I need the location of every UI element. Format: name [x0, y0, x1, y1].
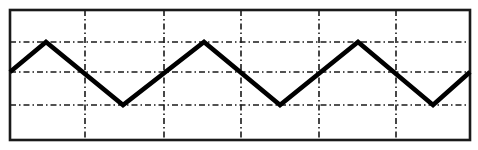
oscilloscope-figure: Triangular waveform displayed on an osci…: [0, 0, 478, 150]
waveform-graticule-plot: [0, 0, 478, 150]
graticule-panel: [10, 10, 470, 140]
